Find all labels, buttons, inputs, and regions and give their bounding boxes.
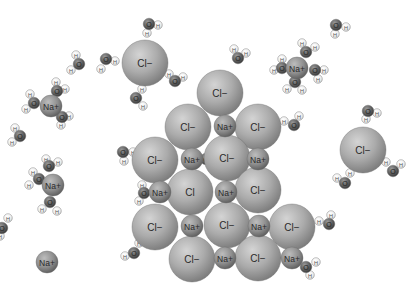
free-chloride-ion: Cl−	[122, 40, 168, 86]
hydrogen-atom: H	[373, 109, 382, 118]
water-molecule: HHO	[42, 155, 63, 172]
water-molecule: HHO	[165, 70, 188, 87]
hydrogen-atom-label: H	[28, 92, 32, 98]
hydrogen-atom-label: H	[31, 170, 35, 176]
oxygen-atom: O	[300, 46, 312, 58]
water-molecule: HHO	[135, 181, 150, 206]
hydrogen-atom-label: H	[0, 234, 2, 240]
hydrogen-atom-label: H	[297, 114, 301, 120]
oxygen-atom-label: O	[47, 199, 53, 206]
hydrogen-atom-label: H	[285, 87, 289, 93]
oxygen-atom-label: O	[133, 95, 139, 102]
nacl-crystal-lattice: Cl−Cl−Cl−Cl−Cl−ClCl−Cl−Cl−Cl−Cl−Cl−Na+Na…	[132, 70, 315, 282]
free-sodium-ion: Na+	[36, 251, 58, 273]
water-molecule: HHO	[51, 78, 69, 97]
hydrogen-atom-label: H	[40, 207, 44, 213]
oxygen-atom: O	[309, 64, 321, 76]
oxygen-atom: O	[28, 97, 40, 109]
hydrogen-atom: H	[154, 21, 163, 30]
lattice-sodium-ion: Na+	[149, 181, 171, 203]
lattice-sodium-ion: Na+	[214, 115, 236, 137]
hydrogen-atom: H	[54, 158, 63, 167]
oxygen-atom-label: O	[326, 221, 332, 228]
oxygen-atom-label: O	[131, 250, 137, 257]
hydrogen-atom-label: H	[156, 23, 160, 29]
oxygen-atom: O	[288, 119, 300, 131]
oxygen-atom-label: O	[0, 225, 5, 232]
oxygen-atom: O	[44, 196, 56, 208]
water-molecule: HHO	[38, 196, 62, 215]
oxygen-atom-label: O	[292, 79, 298, 86]
hydrogen-atom: H	[327, 211, 336, 220]
nacl-dissolution-diagram: HHOHHOHHOHHOHHOHHOHHOHHOHHOHHOHHOHHOHHOH…	[0, 0, 411, 288]
lattice-chloride-ion: Cl−	[269, 204, 315, 250]
lattice-chloride-ion-label: Cl−	[284, 222, 299, 233]
lattice-chloride-ion: Cl−	[197, 70, 243, 116]
hydrogen-atom-label: H	[335, 176, 339, 182]
hydrogen-atom: H	[53, 207, 62, 216]
hydrogen-atom-label: H	[329, 213, 333, 219]
free-sodium-ion-label: Na+	[45, 181, 61, 191]
free-sodium-ion-label: Na+	[39, 258, 55, 268]
water-molecule: HHO	[25, 168, 45, 190]
oxygen-atom-label: O	[312, 67, 318, 74]
hydrogen-atom-label: H	[316, 77, 320, 83]
hydrogen-atom-label: H	[69, 68, 73, 74]
hydrogen-atom-label: H	[140, 87, 144, 93]
hydrogen-atom-label: H	[167, 72, 171, 78]
hydrogen-atom: H	[311, 43, 320, 52]
hydrogen-atom-label: H	[56, 160, 60, 166]
water-molecule: HHO	[362, 105, 382, 123]
oxygen-atom: O	[362, 105, 374, 117]
hydrogen-atom-label: H	[10, 140, 14, 146]
hydrogen-atom-label: H	[384, 160, 388, 166]
water-molecule: HHO	[315, 211, 336, 230]
hydrogen-atom-label: H	[300, 41, 304, 47]
hydrogen-atom-label: H	[308, 273, 312, 279]
oxygen-atom-label: O	[303, 49, 309, 56]
oxygen-atom-label: O	[59, 114, 65, 121]
free-sodium-ion: Na+	[42, 174, 64, 196]
lattice-sodium-ion: Na+	[247, 148, 269, 170]
free-chloride-ion: Cl−	[340, 127, 386, 173]
hydrogen-atom: H	[52, 78, 61, 87]
hydrogen-atom-label: H	[313, 45, 317, 51]
oxygen-atom: O	[143, 18, 155, 30]
water-molecule: HHO	[333, 169, 355, 189]
hydrogen-atom-label: H	[333, 32, 337, 38]
hydrogen-atom: H	[97, 65, 106, 74]
oxygen-atom-label: O	[146, 21, 152, 28]
hydrogen-atom-label: H	[59, 123, 63, 129]
oxygen-atom: O	[130, 92, 142, 104]
oxygen-atom-label: O	[54, 88, 60, 95]
hydrogen-atom: H	[143, 29, 152, 38]
hydrogen-atom: H	[38, 205, 47, 214]
hydrogen-atom-label: H	[141, 104, 145, 110]
water-molecule: HHO	[143, 18, 163, 37]
lattice-chloride-ion: Cl−	[235, 167, 281, 213]
hydrogen-atom-label: H	[317, 219, 321, 225]
water-molecule: HHO	[309, 64, 328, 83]
oxygen-atom: O	[330, 19, 342, 31]
hydrogen-atom-label: H	[55, 209, 59, 215]
oxygen-atom-label: O	[141, 190, 147, 197]
free-sodium-ion: Na+	[40, 95, 62, 117]
lattice-chloride-ion-label: Cl−	[180, 122, 195, 133]
hydrogen-atom: H	[331, 30, 340, 39]
hydrogen-atom: H	[4, 214, 13, 223]
diagram-canvas: HHOHHOHHOHHOHHOHHOHHOHHOHHOHHOHHOHHOHHOH…	[0, 0, 411, 288]
water-molecule: HHO	[8, 124, 26, 147]
lattice-sodium-ion-label: Na+	[251, 222, 267, 232]
oxygen-atom: O	[128, 247, 140, 259]
oxygen-atom-label: O	[279, 65, 285, 72]
oxygen-atom-label: O	[303, 264, 309, 271]
hydrogen-atom-label: H	[74, 53, 78, 59]
hydrogen-atom: H	[298, 86, 307, 95]
hydrogen-atom-label: H	[6, 216, 10, 222]
oxygen-atom: O	[0, 222, 8, 234]
hydrogen-atom-label: H	[244, 51, 248, 57]
lattice-chloride-ion-label: Cl−	[147, 222, 162, 233]
lattice-sodium-ion-label: Na+	[250, 155, 266, 165]
lattice-sodium-ion: Na+	[281, 247, 303, 269]
hydrogen-atom-label: H	[364, 117, 368, 123]
